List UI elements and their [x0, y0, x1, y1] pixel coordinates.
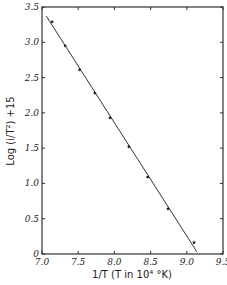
y-tick-label: 1.0 [25, 178, 40, 188]
data-point [127, 145, 130, 148]
y-tick-label: 3.0 [25, 37, 40, 47]
y-axis-label: Log (i/T²) +15 [5, 96, 16, 165]
x-axis-label: 1/T (T in 10⁴ °K) [92, 269, 172, 280]
y-tick-label: 0.5 [25, 214, 40, 224]
x-tick-label: 9.0 [180, 257, 195, 267]
y-tick-label: 0 [33, 249, 39, 259]
data-point [167, 207, 170, 210]
x-axis-ticks: 7.07.58.08.59.09.5 [35, 7, 227, 267]
x-tick-label: 8.0 [107, 257, 122, 267]
data-series [46, 16, 197, 252]
y-tick-label: 2.0 [24, 108, 40, 118]
x-tick-label: 9.5 [216, 257, 227, 267]
y-axis-ticks: 00.51.01.52.02.53.03.5 [24, 2, 223, 259]
data-point [109, 116, 112, 119]
fit-line [46, 16, 197, 252]
data-point [93, 92, 96, 95]
y-tick-label: 2.5 [24, 73, 40, 83]
plot-frame [42, 7, 223, 254]
data-point [193, 241, 196, 244]
data-point [64, 44, 67, 47]
x-tick-label: 8.5 [143, 257, 158, 267]
y-tick-label: 1.5 [25, 143, 40, 153]
plot-border [42, 7, 223, 254]
data-point [78, 68, 81, 71]
chart: 7.07.58.08.59.09.5 00.51.01.52.02.53.03.… [0, 0, 227, 285]
data-point [146, 176, 149, 179]
data-point [51, 20, 54, 23]
x-tick-label: 7.5 [71, 257, 86, 267]
y-tick-label: 3.5 [25, 2, 40, 12]
